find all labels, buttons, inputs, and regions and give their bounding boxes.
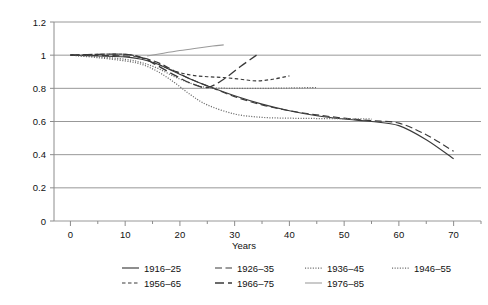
x-tick-label: 50 [339,229,350,240]
x-axis-tick-labels: 010203040506070 [68,229,459,240]
legend-label: 1946–55 [414,263,451,274]
y-tick-label: 0 [41,216,46,227]
legend-label: 1916–25 [144,263,181,274]
series-line-1936-45 [70,55,371,119]
series-line-1956-65 [70,54,289,81]
x-tick-label: 30 [229,229,240,240]
legend-label: 1926–35 [237,263,274,274]
x-tick-label: 60 [394,229,405,240]
y-tick-label: 0.8 [33,83,46,94]
y-tick-label: 1 [41,50,46,61]
x-tick-label: 70 [448,229,459,240]
series-line-1966-75 [70,54,256,88]
y-tick-label: 0.2 [33,182,46,193]
chart-container: 010203040506070 00.20.40.60.811.2 Years … [0,0,488,305]
x-tick-label: 10 [120,229,131,240]
legend-label: 1976–85 [327,278,364,289]
y-tick-label: 1.2 [33,17,46,28]
line-chart: 010203040506070 00.20.40.60.811.2 Years … [0,0,488,305]
gridlines [54,22,481,221]
y-axis-ticks [50,22,54,221]
data-series-layer [70,45,453,159]
x-tick-label: 0 [68,229,73,240]
chart-legend: 1916–251926–351936–451946–551956–651966–… [122,263,451,289]
x-axis-title: Years [232,240,256,251]
x-axis-ticks [70,221,481,226]
legend-label: 1966–75 [237,278,274,289]
legend-label: 1936–45 [327,263,364,274]
legend-label: 1956–65 [144,278,181,289]
x-tick-label: 40 [284,229,295,240]
series-line-1976-85 [147,45,224,56]
series-line-1926-35 [70,55,453,151]
x-tick-label: 20 [175,229,186,240]
y-tick-label: 0.6 [33,116,46,127]
y-axis-tick-labels: 00.20.40.60.811.2 [33,17,46,227]
series-line-1946-55 [70,55,316,88]
series-line-1916-25 [70,55,453,159]
y-tick-label: 0.4 [33,149,46,160]
